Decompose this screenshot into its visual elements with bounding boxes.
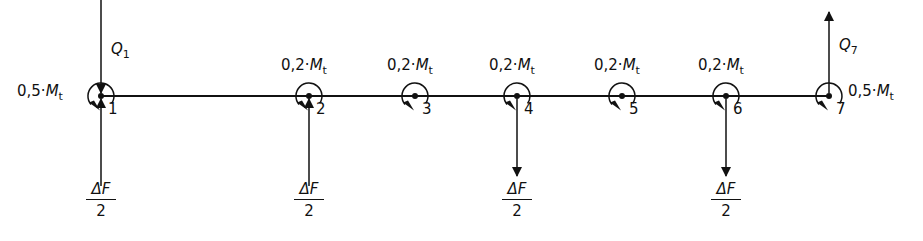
moment-arrow-icon bbox=[89, 100, 100, 110]
node-number-4: 4 bbox=[524, 100, 534, 118]
moment-arrow-icon bbox=[403, 100, 414, 110]
node-dot bbox=[619, 93, 625, 99]
fraction-numerator: ΔF bbox=[502, 180, 532, 200]
fraction-numerator: ΔF bbox=[711, 180, 741, 200]
fraction-denominator: 2 bbox=[502, 200, 532, 220]
moment-label-7: 0,5·Mt bbox=[848, 82, 894, 103]
load-label-node-4: ΔF2 bbox=[502, 180, 532, 220]
moment-label-6: 0,2·Mt bbox=[698, 56, 744, 77]
fraction-numerator: ΔF bbox=[86, 180, 116, 200]
node-number-2: 2 bbox=[316, 100, 326, 118]
moment-label-3: 0,2·Mt bbox=[387, 56, 433, 77]
load-label-node-6: ΔF2 bbox=[711, 180, 741, 220]
node-number-1: 1 bbox=[108, 100, 118, 118]
fraction-numerator: ΔF bbox=[294, 180, 324, 200]
node-dot bbox=[514, 93, 520, 99]
moment-arrow-icon bbox=[505, 100, 516, 110]
moment-label-1: 0,5·Mt bbox=[17, 82, 63, 103]
node-number-7: 7 bbox=[836, 100, 846, 118]
load-label-node-1: ΔF2 bbox=[86, 180, 116, 220]
moment-arrow-icon bbox=[714, 100, 725, 110]
reaction-label-q1: Q1 bbox=[111, 40, 130, 61]
node-dot bbox=[723, 93, 729, 99]
moment-coefficient: 0,5 bbox=[17, 82, 41, 100]
load-label-node-2: ΔF2 bbox=[294, 180, 324, 220]
moment-arrow-icon bbox=[817, 100, 828, 110]
node-dot bbox=[826, 93, 832, 99]
moment-coefficient: 0,2 bbox=[387, 56, 411, 74]
moment-coefficient: 0,2 bbox=[489, 56, 513, 74]
moment-arrow-icon bbox=[297, 100, 308, 110]
node-number-6: 6 bbox=[733, 100, 743, 118]
moment-coefficient: 0,5 bbox=[848, 82, 872, 100]
reaction-label-q7: Q7 bbox=[839, 36, 858, 57]
moment-label-5: 0,2·Mt bbox=[594, 56, 640, 77]
moment-coefficient: 0,2 bbox=[698, 56, 722, 74]
node-dot bbox=[412, 93, 418, 99]
moment-coefficient: 0,2 bbox=[281, 56, 305, 74]
force-arrows bbox=[101, 0, 829, 186]
fraction-denominator: 2 bbox=[711, 200, 741, 220]
moment-label-2: 0,2·Mt bbox=[281, 56, 327, 77]
node-dot bbox=[98, 93, 104, 99]
fraction-denominator: 2 bbox=[86, 200, 116, 220]
fraction-denominator: 2 bbox=[294, 200, 324, 220]
moment-arrow-icon bbox=[610, 100, 621, 110]
node-number-5: 5 bbox=[629, 100, 639, 118]
moment-label-4: 0,2·Mt bbox=[489, 56, 535, 77]
moment-coefficient: 0,2 bbox=[594, 56, 618, 74]
beam-diagram bbox=[0, 0, 923, 241]
node-number-3: 3 bbox=[422, 100, 432, 118]
node-dot bbox=[306, 93, 312, 99]
